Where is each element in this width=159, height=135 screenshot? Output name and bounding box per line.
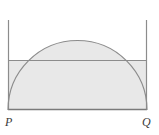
geometry-figure: P Q [0,0,159,135]
figure-canvas [0,0,159,135]
corner-fill-shape [8,60,147,135]
vertex-label-Q: Q [142,116,151,128]
vertex-label-P: P [5,116,12,128]
shaded-corner-regions [8,60,147,135]
